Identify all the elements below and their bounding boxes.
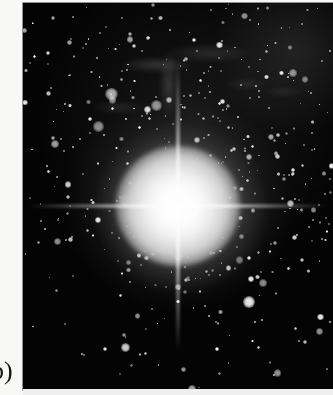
plate-bottom-margin [23, 389, 333, 395]
panel-label: b) [0, 357, 21, 387]
film-grain [23, 3, 333, 390]
astronomical-photo [23, 3, 333, 390]
figure-panel: b) [0, 0, 333, 395]
